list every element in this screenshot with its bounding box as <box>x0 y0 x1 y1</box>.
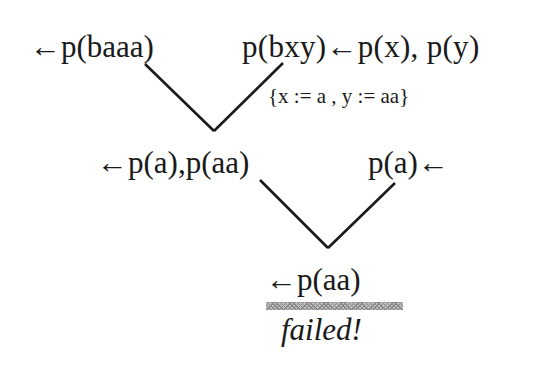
failure-hatch-bar <box>266 302 403 310</box>
resolvent2-node: ←p(aa) <box>266 264 361 295</box>
edge-fact-to-resolvent2 <box>328 183 395 248</box>
resolvent1-node: ←p(a),p(aa) <box>97 147 249 178</box>
edge-resolvent1-to-resolvent2 <box>260 180 328 248</box>
edge-goal-to-resolvent1 <box>145 64 214 131</box>
failed-label: failed! <box>281 314 362 345</box>
fact-node: p(a)← <box>368 147 449 178</box>
unifier-label: {x := a , y := aa} <box>268 86 409 107</box>
clause1-node: p(bxy)←p(x), p(y) <box>242 31 480 62</box>
goal-node: ←p(baaa) <box>30 31 154 62</box>
